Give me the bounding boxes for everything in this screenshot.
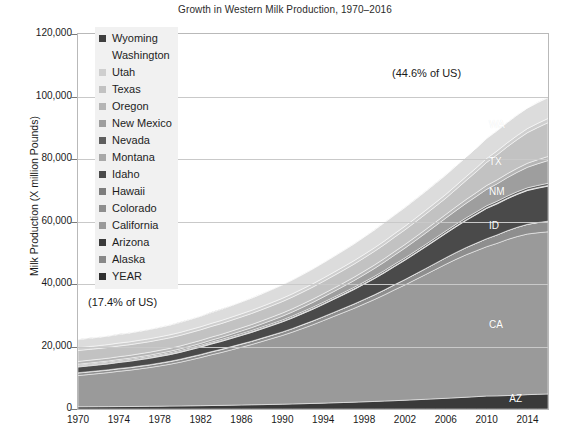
chart-root: Growth in Western Milk Production, 1970–… xyxy=(0,0,570,440)
legend-item-label: Colorado xyxy=(112,200,157,217)
legend-item[interactable]: Utah xyxy=(99,64,172,81)
legend-item[interactable]: Idaho xyxy=(99,166,172,183)
legend-swatch-icon xyxy=(99,120,106,127)
legend-item[interactable]: Arizona xyxy=(99,234,172,251)
legend-item[interactable]: Texas xyxy=(99,81,172,98)
legend-item[interactable]: Montana xyxy=(99,149,172,166)
legend-swatch-icon xyxy=(99,188,106,195)
legend-item[interactable]: Colorado xyxy=(99,200,172,217)
legend-item-label: California xyxy=(112,217,158,234)
annotation-top: (44.6% of US) xyxy=(392,67,461,79)
x-tick-label: 1978 xyxy=(138,414,182,425)
annotation-bottom: (17.4% of US) xyxy=(88,296,157,308)
legend-swatch-icon xyxy=(99,103,106,110)
x-tick-label: 1974 xyxy=(97,414,141,425)
x-tick-label: 2006 xyxy=(424,414,468,425)
x-tick-label: 2010 xyxy=(465,414,509,425)
legend-item-label: Alaska xyxy=(112,251,145,268)
legend-item[interactable]: New Mexico xyxy=(99,115,172,132)
x-tick-label: 1982 xyxy=(179,414,223,425)
legend-item[interactable]: Wyoming xyxy=(99,30,172,47)
legend-swatch-icon xyxy=(99,35,106,42)
legend-item-label: Wyoming xyxy=(112,30,158,47)
legend-item-label: Arizona xyxy=(112,234,149,251)
series-label-wa: WA xyxy=(489,119,505,130)
gridline xyxy=(78,347,548,348)
x-tick-label: 2014 xyxy=(506,414,550,425)
legend-item-label: New Mexico xyxy=(112,115,172,132)
chart-legend[interactable]: WyomingWashingtonUtahTexasOregonNew Mexi… xyxy=(95,27,178,289)
legend-swatch-icon xyxy=(99,137,106,144)
x-tick-label: 2002 xyxy=(383,414,427,425)
legend-item-label: Montana xyxy=(112,149,155,166)
legend-item-label: Idaho xyxy=(112,166,140,183)
legend-swatch-icon xyxy=(99,256,106,263)
legend-item-label: Utah xyxy=(112,64,135,81)
legend-item-label: Texas xyxy=(112,81,141,98)
x-tick-label: 1990 xyxy=(260,414,304,425)
legend-item-label: Oregon xyxy=(112,98,149,115)
series-label-nm: NM xyxy=(489,186,505,197)
legend-item[interactable]: Hawaii xyxy=(99,183,172,200)
legend-swatch-icon xyxy=(99,154,106,161)
legend-swatch-icon xyxy=(99,222,106,229)
legend-item[interactable]: Washington xyxy=(99,47,172,64)
legend-swatch-icon xyxy=(99,86,106,93)
x-tick-label: 1986 xyxy=(219,414,263,425)
series-label-az: AZ xyxy=(509,393,522,404)
x-tick-label: 1994 xyxy=(301,414,345,425)
legend-item[interactable]: California xyxy=(99,217,172,234)
legend-item-label: Hawaii xyxy=(112,183,145,200)
legend-swatch-icon xyxy=(99,171,106,178)
legend-swatch-icon xyxy=(99,69,106,76)
legend-item[interactable]: YEAR xyxy=(99,268,172,285)
legend-item[interactable]: Alaska xyxy=(99,251,172,268)
legend-swatch-icon xyxy=(99,52,106,59)
series-label-id: ID xyxy=(489,220,499,231)
series-label-tx: TX xyxy=(489,156,502,167)
legend-swatch-icon xyxy=(99,205,106,212)
legend-item-label: Washington xyxy=(112,47,170,64)
legend-item[interactable]: Oregon xyxy=(99,98,172,115)
x-tick-label: 1970 xyxy=(56,414,100,425)
x-tick-label: 1998 xyxy=(342,414,386,425)
legend-item-label: YEAR xyxy=(112,268,142,285)
legend-item[interactable]: Nevada xyxy=(99,132,172,149)
legend-item-label: Nevada xyxy=(112,132,150,149)
legend-swatch-icon xyxy=(99,239,106,246)
legend-swatch-icon xyxy=(99,273,106,280)
series-label-ca: CA xyxy=(489,319,503,330)
